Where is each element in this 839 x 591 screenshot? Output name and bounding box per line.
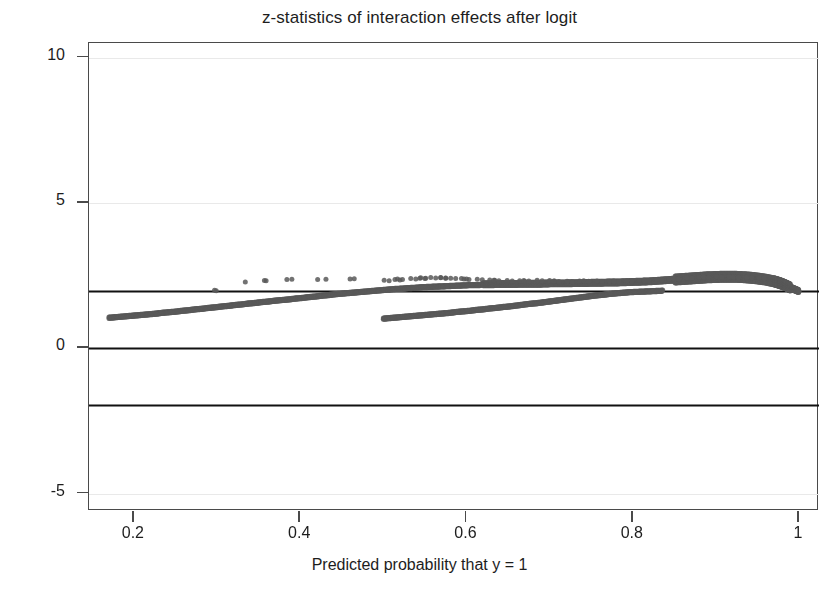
x-tick-mark (298, 511, 300, 522)
x-tick-label: 1 (758, 524, 838, 542)
y-axis-label: z-statistic (0, 146, 2, 346)
plot-area (88, 42, 818, 510)
y-tick-mark (77, 492, 88, 494)
y-tick-mark (77, 56, 88, 58)
x-tick-mark (132, 511, 134, 522)
y-tick-mark (77, 201, 88, 203)
x-tick-mark (465, 511, 467, 522)
scatter-canvas (89, 43, 819, 511)
x-tick-label: 0.6 (425, 524, 505, 542)
chart-figure: z-statistics of interaction effects afte… (0, 0, 839, 591)
x-tick-mark (797, 511, 799, 522)
x-tick-label: 0.8 (592, 524, 672, 542)
y-tick-label: -5 (5, 482, 65, 500)
x-tick-label: 0.4 (259, 524, 339, 542)
x-tick-label: 0.2 (93, 524, 173, 542)
chart-title: z-statistics of interaction effects afte… (0, 8, 839, 28)
y-tick-mark (77, 346, 88, 348)
x-axis-label: Predicted probability that y = 1 (0, 556, 839, 574)
x-tick-mark (631, 511, 633, 522)
y-tick-label: 5 (5, 191, 65, 209)
y-tick-label: 0 (5, 336, 65, 354)
y-tick-label: 10 (5, 46, 65, 64)
